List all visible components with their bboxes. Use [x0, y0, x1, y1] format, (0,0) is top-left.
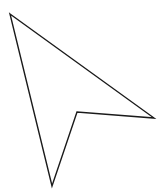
cursor-arrow-icon — [0, 0, 164, 195]
drawing-canvas — [0, 0, 164, 195]
arrow-outline — [10, 14, 154, 186]
